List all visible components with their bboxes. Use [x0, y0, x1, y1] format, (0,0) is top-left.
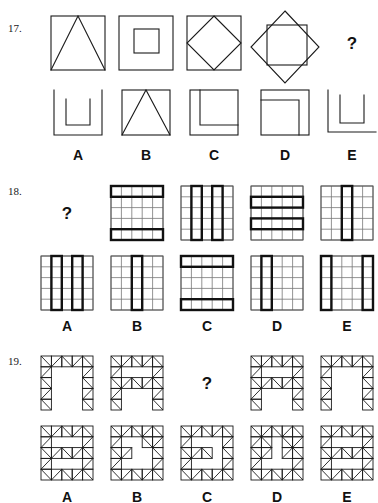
question-17-number: 17. [8, 22, 22, 34]
option-b-17-label: B [112, 147, 180, 163]
stimulus-hatched-3-19 [242, 352, 312, 414]
option-a-19-label: A [32, 489, 102, 503]
stimulus-square-with-inscribed-triangle [44, 12, 112, 74]
stimulus-hatched-4-19 [312, 352, 378, 414]
option-e-17[interactable]: E [322, 82, 378, 144]
stimulus-grid-4-18 [312, 182, 378, 244]
option-c-17-label: C [180, 147, 248, 163]
option-b-18-label: B [102, 318, 172, 334]
option-c-18[interactable]: C [172, 252, 242, 314]
option-a-17[interactable]: A [44, 82, 112, 144]
option-b-18[interactable]: B [102, 252, 172, 314]
question-18-stimulus-row: ? [32, 182, 378, 244]
stimulus-grid-1-18 [102, 182, 172, 244]
question-19-stimulus-row: ? [32, 352, 378, 414]
stimulus-grid-3-18 [242, 182, 312, 244]
question-17-stimulus-row: ? [44, 12, 378, 74]
option-e-19-label: E [312, 489, 378, 503]
option-d-19-label: D [242, 489, 312, 503]
option-e-19[interactable]: E [312, 422, 378, 484]
question-19-options-row: A B C D E [32, 422, 378, 484]
option-d-17-label: D [248, 147, 322, 163]
option-c-19-label: C [172, 489, 242, 503]
option-a-17-label: A [44, 147, 112, 163]
option-a-18-label: A [32, 318, 102, 334]
stimulus-question-mark-18: ? [32, 182, 102, 244]
option-c-17[interactable]: C [180, 82, 248, 144]
option-b-19[interactable]: B [102, 422, 172, 484]
option-e-17-label: E [322, 147, 378, 163]
option-d-19[interactable]: D [242, 422, 312, 484]
stimulus-question-mark-17: ? [322, 12, 378, 74]
option-a-19[interactable]: A [32, 422, 102, 484]
option-e-18-label: E [312, 318, 378, 334]
question-mark-18: ? [62, 205, 72, 222]
test-page: 17. [0, 0, 378, 503]
question-19-number: 19. [8, 355, 22, 367]
option-c-19[interactable]: C [172, 422, 242, 484]
stimulus-hatched-2-19 [102, 352, 172, 414]
option-b-19-label: B [102, 489, 172, 503]
question-17-options-row: A B C D [44, 82, 378, 144]
option-e-18[interactable]: E [312, 252, 378, 314]
stimulus-grid-2-18 [172, 182, 242, 244]
option-d-18-label: D [242, 318, 312, 334]
question-mark-17: ? [347, 35, 357, 52]
question-18-options-row: A B C D E [32, 252, 378, 314]
option-d-17[interactable]: D [248, 82, 322, 144]
stimulus-square-with-inner-square [112, 12, 180, 74]
option-b-17[interactable]: B [112, 82, 180, 144]
stimulus-diamond-with-inner-square [248, 12, 322, 74]
option-a-18[interactable]: A [32, 252, 102, 314]
option-c-18-label: C [172, 318, 242, 334]
stimulus-square-with-inscribed-diamond [180, 12, 248, 74]
stimulus-question-mark-19: ? [172, 352, 242, 414]
stimulus-hatched-1-19 [32, 352, 102, 414]
question-mark-19: ? [202, 375, 212, 392]
option-d-18[interactable]: D [242, 252, 312, 314]
question-18-number: 18. [8, 185, 22, 197]
